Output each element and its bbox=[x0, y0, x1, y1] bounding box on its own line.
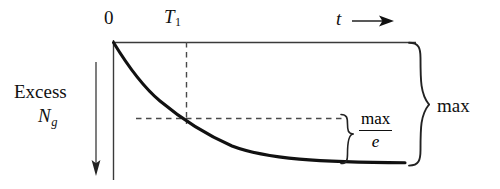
decay-curve-figure: 0 T1 t Excess Ng max max e bbox=[0, 0, 500, 189]
x-axis-label: t bbox=[336, 9, 341, 28]
t-axis-arrow-icon bbox=[352, 16, 394, 27]
max-over-e-annotation: max e bbox=[359, 110, 392, 152]
y-axis-label-ng-base: N bbox=[38, 105, 51, 126]
y-axis-label-excess: Excess bbox=[14, 82, 67, 101]
max-over-e-denominator: e bbox=[359, 132, 392, 151]
max-over-e-numerator: max bbox=[359, 110, 392, 129]
fraction-bar bbox=[359, 130, 392, 131]
t1-tick-label: T1 bbox=[164, 7, 181, 28]
max-over-e-brace bbox=[341, 115, 353, 164]
y-axis-label-ng-subscript: g bbox=[51, 115, 57, 129]
origin-tick-label: 0 bbox=[104, 8, 114, 27]
y-axis-label-ng: Ng bbox=[38, 106, 57, 128]
excess-ng-arrow-icon bbox=[92, 62, 101, 176]
max-annotation-label: max bbox=[437, 96, 470, 115]
figure-canvas bbox=[0, 0, 500, 189]
t1-tick-label-base: T bbox=[164, 6, 175, 27]
t1-tick-label-subscript: 1 bbox=[175, 15, 181, 29]
max-brace bbox=[409, 43, 429, 166]
